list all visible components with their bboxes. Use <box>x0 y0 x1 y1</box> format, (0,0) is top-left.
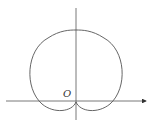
origin-label: O <box>63 88 71 99</box>
diagram-canvas <box>0 0 157 127</box>
